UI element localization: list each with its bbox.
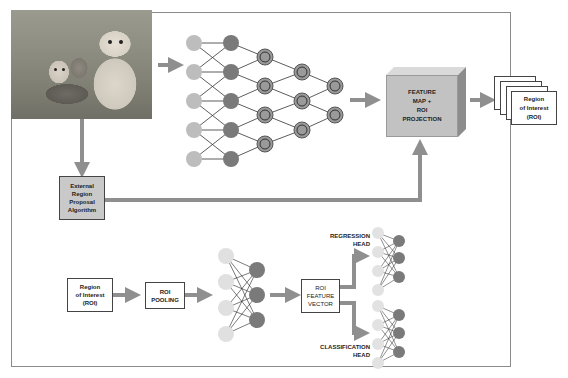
regression-head-label: REGRESSION HEAD: [310, 232, 370, 248]
roi-feature-vector-box: ROI FEATURE VECTOR: [301, 279, 340, 313]
feature-vector-line-1: ROI: [307, 284, 335, 292]
roi-stack-front-card: Region of Interest (ROI): [511, 91, 557, 125]
feature-cube-side: [458, 67, 466, 137]
classification-line-1: CLASSIFICATION: [300, 343, 370, 351]
feature-line-4: PROJECTION: [402, 115, 441, 124]
feature-cube-top: [386, 67, 466, 75]
roi-stack-line-1: Region: [519, 95, 548, 104]
classification-head-label: CLASSIFICATION HEAD: [300, 343, 370, 359]
feature-line-3: ROI: [402, 106, 441, 115]
proposal-line-1: External: [68, 182, 96, 190]
proposal-line-4: Algorithm: [68, 206, 96, 214]
roi-stack-line-3: (ROI): [519, 113, 548, 122]
roi-input-line-3: (ROI): [75, 299, 104, 307]
roi-input-box: Region of Interest (ROI): [67, 278, 113, 312]
classification-line-2: HEAD: [300, 351, 370, 359]
proposal-line-3: Proposal: [68, 198, 96, 206]
regression-line-1: REGRESSION: [310, 232, 370, 240]
feature-map-roi-projection-box: FEATURE MAP + ROI PROJECTION: [386, 75, 458, 137]
roi-input-line-1: Region: [75, 283, 104, 291]
external-region-proposal-box: External Region Proposal Algorithm: [59, 176, 105, 220]
roi-input-line-2: of Interest: [75, 291, 104, 299]
feature-vector-line-3: VECTOR: [307, 300, 335, 308]
roi-stack-line-2: of Interest: [519, 104, 548, 113]
regression-line-2: HEAD: [310, 240, 370, 248]
roi-pooling-line-1: ROI: [151, 288, 179, 296]
feature-vector-line-2: FEATURE: [307, 292, 335, 300]
roi-pooling-box: ROI POOLING: [145, 282, 185, 309]
feature-line-2: MAP +: [402, 97, 441, 106]
feature-line-1: FEATURE: [402, 88, 441, 97]
proposal-line-2: Region: [68, 190, 96, 198]
roi-pooling-line-2: POOLING: [151, 296, 179, 304]
